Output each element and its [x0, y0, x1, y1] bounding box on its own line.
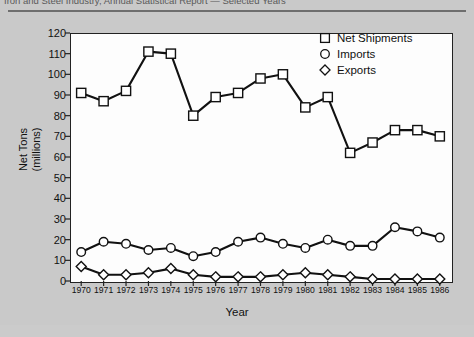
circle-marker-icon	[435, 233, 444, 242]
square-marker-icon	[390, 126, 399, 135]
legend-item-label: Imports	[337, 48, 375, 60]
diamond-marker-icon	[233, 272, 243, 282]
square-marker-icon	[99, 97, 108, 106]
square-marker-icon	[368, 138, 377, 147]
square-marker-icon	[144, 47, 153, 56]
diamond-marker-icon	[318, 63, 332, 77]
legend-item-imports[interactable]: Imports	[318, 46, 412, 61]
x-axis-tick-label: 1986	[423, 285, 457, 295]
legend-marker-shape	[321, 33, 330, 42]
diamond-marker-icon	[99, 270, 109, 280]
series-imports	[77, 223, 444, 261]
circle-marker-icon	[391, 223, 400, 232]
square-marker-icon	[233, 88, 242, 97]
legend-item-exports[interactable]: Exports	[318, 62, 412, 77]
diamond-marker-icon	[143, 268, 153, 278]
square-marker-icon	[189, 111, 198, 120]
diamond-marker-icon	[412, 274, 422, 284]
diamond-marker-icon	[345, 272, 355, 282]
square-marker-icon	[211, 92, 220, 101]
circle-marker-icon	[122, 240, 131, 249]
diamond-marker-icon	[211, 272, 221, 282]
circle-marker-icon	[346, 242, 355, 251]
square-marker-icon	[435, 132, 444, 141]
diamond-marker-icon	[121, 270, 131, 280]
bottom-strip	[0, 325, 474, 337]
circle-marker-icon	[413, 227, 422, 236]
screenshot-page: Iron and Steel Industry, Annual Statisti…	[0, 0, 474, 337]
circle-marker-icon	[189, 252, 198, 261]
circle-marker-icon	[234, 237, 243, 246]
square-marker-icon	[121, 86, 130, 95]
circle-marker-icon	[323, 235, 332, 244]
circle-marker-icon	[318, 47, 332, 61]
legend-item-label: Net Shipments	[337, 32, 412, 44]
plot-wrapper: 0102030405060708090100110120 Net Tons (m…	[8, 12, 466, 325]
square-marker-icon	[256, 74, 265, 83]
circle-marker-icon	[144, 246, 153, 255]
diamond-marker-icon	[188, 270, 198, 280]
chart-legend: Net ShipmentsImportsExports	[318, 30, 412, 78]
top-caption-text: Iron and Steel Industry, Annual Statisti…	[0, 0, 474, 8]
legend-item-net-shipments[interactable]: Net Shipments	[318, 30, 412, 45]
diamond-marker-icon	[166, 264, 176, 274]
x-axis-title: Year	[8, 306, 466, 318]
circle-marker-icon	[77, 248, 86, 257]
diamond-marker-icon	[76, 262, 86, 272]
chart-figure: 0102030405060708090100110120 Net Tons (m…	[8, 12, 466, 325]
diamond-marker-icon	[256, 272, 266, 282]
series-exports	[76, 262, 445, 284]
diamond-marker-icon	[435, 274, 445, 284]
diamond-marker-icon	[300, 268, 310, 278]
diamond-marker-icon	[368, 274, 378, 284]
x-axis-ticks: 1970197119721973197419751976197719781979…	[8, 285, 466, 303]
diamond-marker-icon	[390, 274, 400, 284]
circle-marker-icon	[167, 244, 176, 253]
circle-marker-icon	[301, 244, 310, 253]
legend-marker-shape	[321, 49, 330, 58]
legend-item-label: Exports	[337, 64, 376, 76]
square-marker-icon	[166, 49, 175, 58]
circle-marker-icon	[211, 248, 220, 257]
square-marker-icon	[323, 92, 332, 101]
circle-marker-icon	[256, 233, 265, 242]
square-marker-icon	[278, 70, 287, 79]
square-marker-icon	[318, 31, 332, 45]
square-marker-icon	[301, 103, 310, 112]
diamond-marker-icon	[323, 270, 333, 280]
legend-marker-shape	[320, 65, 330, 75]
circle-marker-icon	[99, 237, 108, 246]
diamond-marker-icon	[278, 270, 288, 280]
square-marker-icon	[346, 148, 355, 157]
circle-marker-icon	[368, 242, 377, 251]
square-marker-icon	[77, 88, 86, 97]
square-marker-icon	[413, 126, 422, 135]
circle-marker-icon	[279, 240, 288, 249]
